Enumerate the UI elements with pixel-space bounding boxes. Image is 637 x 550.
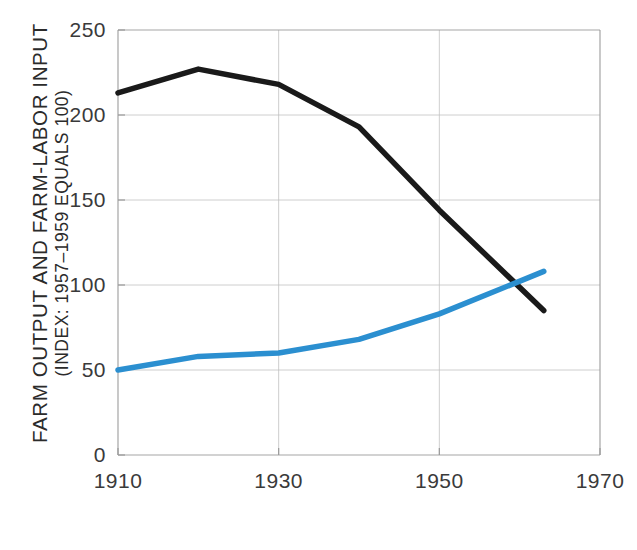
y-tick-label: 250 <box>69 18 106 42</box>
y-tick-label: 50 <box>82 358 106 382</box>
series-line-1 <box>118 69 544 310</box>
x-tick-label: 1970 <box>576 469 625 493</box>
y-tick-label: 200 <box>69 103 106 127</box>
x-tick-label: 1930 <box>254 469 303 493</box>
series-lines <box>118 69 544 370</box>
y-tick-label: 150 <box>69 188 106 212</box>
axis-ticks <box>118 30 600 455</box>
chart-figure: FARM OUTPUT AND FARM-LABOR INPUT (INDEX:… <box>0 0 637 550</box>
y-tick-label: 100 <box>69 273 106 297</box>
series-line-2 <box>118 271 544 370</box>
plot-area: 0501001502002501910193019501970 <box>0 0 637 550</box>
gridlines <box>118 30 600 455</box>
x-tick-label: 1910 <box>94 469 143 493</box>
axis-frame <box>118 30 600 455</box>
y-tick-label: 0 <box>94 443 106 467</box>
x-tick-label: 1950 <box>415 469 464 493</box>
